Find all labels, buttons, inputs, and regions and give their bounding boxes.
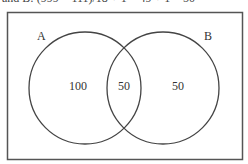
b-only-value: 50 [172, 79, 184, 93]
a-only-value: 100 [69, 79, 87, 93]
set-a-label: A [37, 29, 46, 43]
venn-diagram: A B 100 50 50 [0, 0, 248, 164]
set-b-label: B [204, 29, 212, 43]
intersection-value: 50 [118, 79, 130, 93]
